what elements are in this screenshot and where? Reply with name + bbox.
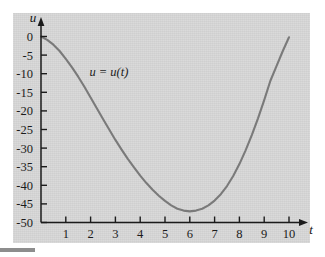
plot-svg: 0-5-10-15-20-25-30-35-40-45-50 123456789… bbox=[0, 0, 325, 257]
x-tick-label: 5 bbox=[162, 227, 168, 241]
x-axis-arrow-icon bbox=[299, 219, 308, 226]
y-axis-arrow-icon bbox=[38, 17, 45, 26]
x-axis-title: t bbox=[309, 222, 313, 237]
y-tick-label: -30 bbox=[16, 142, 33, 156]
curve-u-of-t bbox=[41, 37, 289, 212]
y-tick-label: -45 bbox=[16, 197, 33, 211]
y-tick-labels: 0-5-10-15-20-25-30-35-40-45-50 bbox=[16, 30, 33, 230]
y-tick-label: -20 bbox=[16, 104, 33, 118]
y-tick-label: -15 bbox=[16, 86, 33, 100]
y-tick-marks bbox=[41, 37, 47, 223]
x-tick-marks bbox=[66, 217, 289, 223]
y-tick-label: 0 bbox=[27, 30, 33, 44]
x-tick-labels: 12345678910 bbox=[63, 227, 296, 241]
x-tick-label: 10 bbox=[283, 227, 296, 241]
x-tick-label: 7 bbox=[211, 227, 217, 241]
y-tick-label: -25 bbox=[16, 123, 33, 137]
y-tick-label: -50 bbox=[16, 216, 33, 230]
y-tick-label: -35 bbox=[16, 160, 33, 174]
x-tick-label: 8 bbox=[236, 227, 242, 241]
curve-annotation-label: u = u(t) bbox=[89, 65, 128, 79]
figure-container: 0-5-10-15-20-25-30-35-40-45-50 123456789… bbox=[0, 0, 325, 257]
y-tick-label: -10 bbox=[16, 67, 33, 81]
x-tick-label: 9 bbox=[261, 227, 267, 241]
x-tick-label: 2 bbox=[87, 227, 93, 241]
y-tick-label: -5 bbox=[23, 49, 33, 63]
y-axis-title: u bbox=[30, 10, 37, 25]
x-tick-label: 3 bbox=[112, 227, 118, 241]
y-tick-label: -40 bbox=[16, 179, 33, 193]
x-tick-label: 6 bbox=[187, 227, 193, 241]
x-tick-label: 1 bbox=[63, 227, 69, 241]
x-tick-label: 4 bbox=[137, 227, 144, 241]
corner-register-bar bbox=[0, 248, 35, 252]
